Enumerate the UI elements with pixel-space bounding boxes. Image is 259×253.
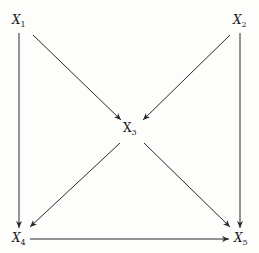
node-x4: X4: [12, 232, 26, 249]
node-x3-subscript: 3: [132, 128, 137, 137]
node-x5-base: X: [234, 231, 243, 245]
node-x5: X5: [234, 232, 248, 249]
node-x4-subscript: 4: [21, 238, 26, 247]
node-x4-base: X: [12, 231, 21, 245]
node-x2-subscript: 2: [242, 20, 247, 29]
edge-x1-x3: [33, 35, 121, 120]
node-x1-base: X: [12, 13, 21, 27]
edge-x2-x3: [143, 35, 230, 120]
edge-x3-x5: [144, 143, 230, 227]
node-x1: X1: [12, 14, 26, 31]
node-x3: X3: [123, 122, 137, 139]
causal-diagram: X1 X2 X3 X4 X5: [0, 0, 259, 253]
node-x2-base: X: [233, 13, 242, 27]
edge-x3-x4: [30, 143, 120, 227]
node-x3-base: X: [123, 121, 132, 135]
node-x2: X2: [233, 14, 247, 31]
node-x1-subscript: 1: [21, 20, 26, 29]
node-x5-subscript: 5: [243, 238, 248, 247]
